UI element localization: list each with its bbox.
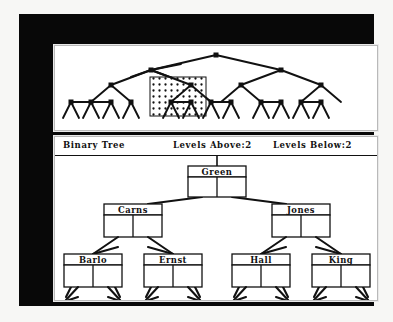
node-label: Carns (118, 205, 148, 215)
tree-node-green[interactable]: Green (188, 166, 246, 197)
tree-node-barlo[interactable]: Barlo (64, 254, 122, 287)
node-label: Green (202, 167, 233, 177)
detail-panel-header: Binary Tree Levels Above:2 Levels Below:… (55, 137, 377, 156)
tree-detail-canvas[interactable]: Green Carns Jones (55, 156, 377, 300)
application-window-frame: Binary Tree Levels Above:2 Levels Below:… (19, 14, 374, 306)
screenshot-root: Binary Tree Levels Above:2 Levels Below:… (0, 0, 393, 322)
tree-node-hall[interactable]: Hall (232, 254, 290, 287)
levels-above-readout[interactable]: Levels Above:2 (173, 140, 252, 150)
node-label: Barlo (79, 255, 107, 265)
tree-node-ernst[interactable]: Ernst (144, 254, 202, 287)
node-label: Jones (286, 205, 315, 215)
tree-detail-panel[interactable]: Binary Tree Levels Above:2 Levels Below:… (54, 136, 378, 301)
node-label: King (329, 255, 353, 265)
levels-below-readout[interactable]: Levels Below:2 (273, 140, 352, 150)
tree-overview-panel[interactable] (54, 45, 378, 131)
tree-overview-canvas[interactable] (55, 46, 377, 130)
node-label: Ernst (159, 255, 187, 265)
tree-node-king[interactable]: King (312, 254, 370, 287)
tree-node-jones[interactable]: Jones (272, 204, 330, 237)
tree-node-carns[interactable]: Carns (104, 204, 162, 237)
page-title: Binary Tree (63, 140, 125, 150)
leaf-child-stubs (69, 297, 365, 300)
level2-child-connectors (93, 237, 341, 254)
node-label: Hall (250, 255, 272, 265)
overview-edges (91, 55, 341, 102)
